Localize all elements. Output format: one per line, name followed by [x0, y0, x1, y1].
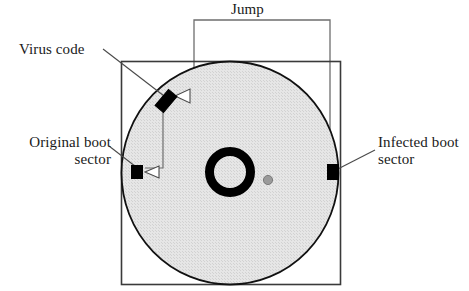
infected-boot-sector-label: Infected bootsector [378, 134, 469, 168]
jump-label: Jump [231, 1, 264, 18]
index-hole [263, 175, 272, 184]
infected-boot-sector-marker [328, 165, 339, 180]
infected-boot-sector-label-line1: Infected boot [378, 134, 459, 150]
original-boot-sector-label: Original bootsector [4, 134, 111, 168]
infected-boot-sector-label-line2: sector [378, 151, 414, 167]
original-boot-sector-label-line2: sector [75, 151, 111, 167]
original-boot-sector-marker [132, 166, 143, 179]
boot-sector-virus-diagram: Jump Virus code Original bootsector Infe… [0, 0, 469, 291]
virus-code-label: Virus code [19, 41, 85, 58]
original-boot-sector-label-line1: Original boot [29, 134, 111, 150]
virus-code-leader-line [103, 49, 168, 99]
